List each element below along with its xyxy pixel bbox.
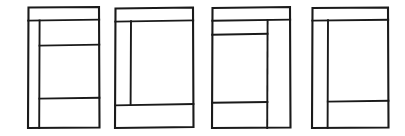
panel-1-right-column-line-1 — [40, 45, 100, 46]
panel-3 — [205, 0, 305, 136]
panel-3-header-strip-line — [212, 20, 290, 21]
panel-3-left-column-line-2 — [212, 102, 267, 103]
panel-3-left-column-line-1 — [212, 34, 267, 35]
panel-2-footer-line — [115, 104, 193, 105]
panel-4-header-strip-line — [312, 20, 388, 21]
panel-4-right-column-line-1 — [328, 101, 389, 102]
panel-1-right-column-line-2 — [39, 98, 99, 99]
diagram-canvas — [0, 0, 405, 136]
panel-2-header-strip-line — [115, 20, 193, 21]
panel-4-outer-rect — [312, 8, 389, 129]
panel-2-outer-rect — [115, 8, 194, 129]
panel-3-outer-rect — [212, 7, 291, 128]
panel-2 — [108, 0, 208, 136]
panel-4 — [305, 0, 405, 136]
